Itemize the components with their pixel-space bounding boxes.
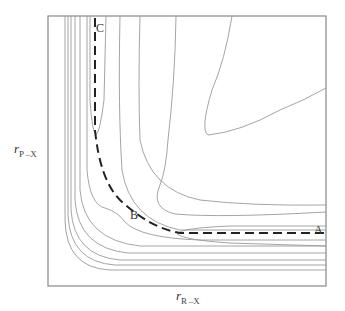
contour-diagram (0, 0, 345, 311)
contour-lines (65, 16, 326, 270)
point-label-a: A (314, 224, 323, 236)
y-axis-label: rP –X (14, 141, 37, 159)
point-label-b: B (130, 209, 138, 221)
point-label-c: C (96, 22, 104, 34)
x-axis-label: rR –X (176, 288, 200, 306)
